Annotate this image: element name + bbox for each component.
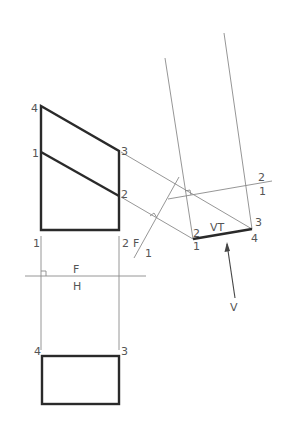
aux-projector-right (224, 33, 252, 229)
label-front-1: 1 (32, 147, 39, 160)
label-front-bottom-1: 1 (33, 237, 40, 250)
label-aux-1: 1 (193, 240, 200, 253)
label-aux-4: 4 (251, 232, 258, 245)
fold-line-aux (168, 181, 272, 199)
label-aux-2: 2 (193, 227, 200, 240)
label-view-v: V (230, 301, 238, 314)
label-fold-f: F (73, 263, 79, 276)
front-view (41, 106, 119, 230)
aux-projector-left (165, 58, 193, 239)
label-fold-aux-1: 1 (259, 185, 266, 198)
top-view-outline (42, 356, 119, 404)
label-vt: VT (210, 221, 225, 234)
label-fold-f1-f: F (133, 237, 139, 250)
label-front-3: 3 (121, 145, 128, 158)
front-view-outline (41, 106, 119, 230)
label-front-bottom-2: 2 (122, 237, 129, 250)
label-front-4: 4 (31, 102, 38, 115)
arrowhead-icon (225, 242, 231, 252)
front-view-edge-1-2 (41, 152, 119, 196)
label-top-3: 3 (121, 345, 128, 358)
drawing-canvas: 4 1 3 2 1 2 F H F 1 2 1 4 3 2 1 VT 3 4 V (0, 0, 292, 432)
label-aux-3: 3 (255, 216, 262, 229)
label-fold-aux-2: 2 (258, 171, 265, 184)
view-direction-arrow (225, 242, 236, 298)
label-fold-h: H (73, 280, 81, 293)
label-fold-f1-1: 1 (145, 247, 152, 260)
label-front-2: 2 (121, 188, 128, 201)
label-top-4: 4 (34, 345, 41, 358)
right-angle-mark-fh (41, 271, 46, 276)
